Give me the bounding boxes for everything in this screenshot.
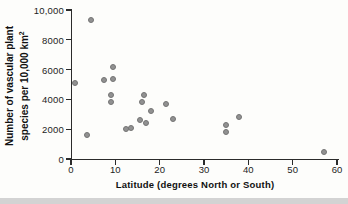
data-point — [170, 116, 176, 122]
data-point — [223, 122, 229, 128]
y-tick-mark — [66, 69, 71, 70]
data-point — [163, 101, 169, 107]
y-tick-label: 6000 — [24, 65, 64, 76]
y-tick-label: 4000 — [24, 94, 64, 105]
data-point — [72, 80, 78, 86]
y-tick-label: 0 — [24, 154, 64, 165]
x-tick-label: 10 — [103, 164, 127, 175]
data-point — [236, 114, 242, 120]
data-point — [128, 125, 134, 131]
x-tick-label: 0 — [59, 164, 83, 175]
x-tick-label: 20 — [148, 164, 172, 175]
y-tick-mark — [66, 129, 71, 130]
y-tick-mark — [66, 39, 71, 40]
y-axis-title: Number of vascular plant species per 10,… — [4, 1, 28, 171]
data-point — [321, 149, 327, 155]
data-point — [148, 108, 154, 114]
data-point — [110, 76, 116, 82]
scatter-chart-figure: Number of vascular plant species per 10,… — [0, 0, 348, 204]
data-point — [223, 129, 229, 135]
y-tick-label: 2000 — [24, 124, 64, 135]
data-point — [139, 99, 145, 105]
y-tick-mark — [66, 99, 71, 100]
x-tick-label: 50 — [281, 164, 305, 175]
data-point — [137, 117, 143, 123]
x-axis-line — [71, 159, 339, 160]
x-tick-label: 60 — [325, 164, 348, 175]
data-point — [143, 120, 149, 126]
scan-edge-band — [0, 198, 348, 204]
y-tick-mark — [66, 9, 71, 10]
data-point — [88, 17, 94, 23]
data-point — [110, 64, 116, 70]
x-tick-label: 40 — [236, 164, 260, 175]
data-point — [101, 77, 107, 83]
data-point — [84, 132, 90, 138]
data-point — [108, 99, 114, 105]
x-axis-title: Latitude (degrees North or South) — [50, 179, 340, 190]
y-axis-title-line1: Number of vascular plant — [4, 26, 15, 146]
y-tick-label: 8000 — [24, 35, 64, 46]
y-tick-label: 10,000 — [24, 5, 64, 16]
data-point — [141, 92, 147, 98]
data-point — [108, 92, 114, 98]
x-tick-label: 30 — [192, 164, 216, 175]
